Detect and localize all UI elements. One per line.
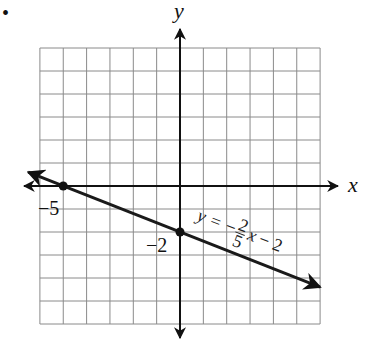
plotted-point	[176, 228, 185, 237]
x-intercept-label: −5	[38, 197, 59, 219]
eq-y: y	[193, 204, 210, 226]
eq-tail: − 2	[256, 229, 285, 256]
x-axis-label: x	[347, 172, 358, 197]
coordinate-plane: • x y −5 −2 y = − 2 5 x − 2	[0, 0, 379, 346]
y-axis-label: y	[172, 0, 184, 23]
graph-line	[28, 172, 320, 287]
y-intercept-label: −2	[146, 234, 167, 256]
eq-equals: =	[208, 210, 225, 232]
problem-marker: •	[2, 2, 9, 24]
plotted-point	[59, 182, 68, 191]
